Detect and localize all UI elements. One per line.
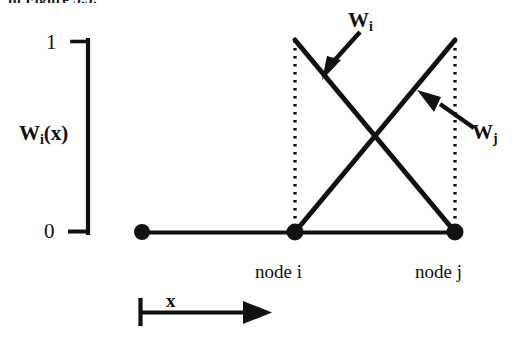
node-marker-j: [447, 224, 464, 241]
y-axis-title-argument: (x): [44, 121, 69, 145]
node-label-j: node j: [415, 262, 462, 281]
node-marker-i: [287, 224, 304, 241]
y-axis-bracket: [70, 40, 88, 233]
node-marker-left-end: [134, 224, 150, 240]
curve-label-wj-base: W: [472, 120, 493, 144]
annotation-arrow-wi: [322, 32, 360, 80]
node-label-i: node i: [255, 262, 302, 281]
y-axis-tick-label-1: 1: [46, 32, 57, 53]
annotation-arrow-wj: [417, 90, 474, 128]
y-axis-title: Wi(x): [19, 123, 68, 147]
curve-label-wi: Wi: [348, 10, 373, 34]
figure-container: in Figure 3.3.: [0, 0, 524, 345]
curve-label-wi-base: W: [348, 8, 369, 32]
y-axis-title-base: W: [19, 121, 40, 145]
x-axis-arrow: [140, 300, 272, 324]
y-axis-tick-label-0: 0: [44, 221, 55, 242]
x-axis-label: x: [166, 291, 176, 310]
curve-label-wj-subscript: j: [493, 131, 498, 146]
figure-drawing: [0, 0, 524, 345]
curve-label-wj: Wj: [472, 122, 498, 146]
curve-label-wi-subscript: i: [369, 19, 373, 34]
